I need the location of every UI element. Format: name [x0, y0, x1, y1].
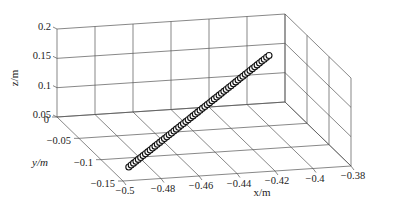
floor-grid-x [247, 105, 313, 169]
y-tick-label: −0.1 [74, 157, 93, 168]
floor-grid-y [101, 145, 329, 160]
side-grid-z [285, 14, 351, 78]
side-grid-z [285, 73, 351, 137]
side-grid-z [285, 43, 351, 107]
floor-grid-x [171, 110, 237, 174]
x-tick-label: −0.38 [341, 170, 365, 181]
x-axis-label: x/m [253, 186, 271, 198]
y-tick-label: −0.15 [91, 178, 115, 189]
z-tick-mark [53, 27, 57, 29]
x-tick-label: −0.44 [227, 178, 252, 189]
z-tick-label: 0.1 [38, 80, 51, 91]
x-tick-label: −0.4 [305, 173, 325, 184]
y-axis-label: y/m [31, 156, 48, 168]
floor-grid-x [209, 107, 275, 171]
x-tick-label: −0.42 [265, 175, 289, 186]
x-tick-label: −0.48 [151, 183, 175, 194]
axes-box [52, 14, 354, 185]
side-grid-z [285, 102, 351, 166]
z-tick-mark [53, 86, 57, 88]
z-tick-mark [53, 56, 57, 58]
x-tick-label: −0.46 [189, 180, 213, 191]
y-tick-label: −0.05 [47, 135, 71, 146]
y-tick-label: 0 [44, 114, 49, 125]
floor-grid-x [57, 117, 123, 181]
z-axis-label: z/m [8, 69, 20, 86]
data-point-marker [266, 52, 272, 58]
3d-scatter-plot: 0.050.10.150.20−0.05−0.1−0.15−0.5−0.48−0… [0, 0, 393, 209]
z-tick-label: 0.2 [38, 21, 51, 32]
x-tick-label: −0.5 [115, 185, 134, 196]
floor-grid-y [79, 123, 307, 138]
z-tick-label: 0.15 [33, 50, 51, 61]
